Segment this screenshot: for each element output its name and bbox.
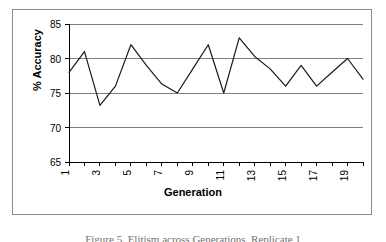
line-chart: 6570758085135791113151719 (13, 10, 371, 214)
figure-container: 6570758085135791113151719 % Accuracy Gen… (0, 0, 386, 242)
y-tick-label: 85 (50, 19, 62, 30)
y-tick-label: 75 (50, 88, 62, 99)
x-tick-label: 11 (215, 170, 226, 181)
x-tick-label: 5 (122, 170, 133, 176)
chart-frame: 6570758085135791113151719 % Accuracy Gen… (12, 9, 372, 215)
figure-caption: Figure 5. Elitism across Generations, Re… (0, 233, 386, 242)
y-axis-title: % Accuracy (31, 0, 43, 120)
x-tick-label: 19 (339, 170, 350, 182)
x-axis-title: Generation (13, 186, 373, 198)
y-tick-label: 65 (50, 157, 62, 168)
x-tick-label: 7 (153, 170, 164, 176)
x-tick-label: 13 (246, 170, 257, 182)
x-tick-label: 3 (91, 170, 102, 176)
x-tick-label: 1 (60, 170, 71, 176)
x-tick-label: 9 (184, 170, 195, 176)
x-tick-label: 17 (308, 170, 319, 182)
accuracy-series-line (69, 38, 363, 106)
y-tick-label: 70 (50, 123, 62, 134)
y-tick-label: 80 (50, 54, 62, 65)
x-tick-label: 15 (277, 170, 288, 182)
